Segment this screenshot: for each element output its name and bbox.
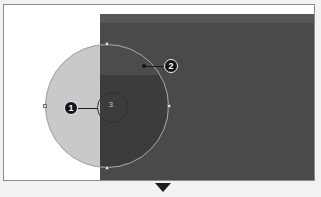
callout-2-badge[interactable]: 2 bbox=[164, 59, 178, 73]
callout-marker-2[interactable]: 2 bbox=[164, 59, 178, 73]
resize-handle-bottom[interactable] bbox=[105, 166, 109, 170]
image-canvas[interactable]: 3 1 2 bbox=[3, 4, 315, 181]
bottom-pointer-triangle[interactable] bbox=[155, 183, 171, 192]
resize-handle-right[interactable] bbox=[167, 104, 171, 108]
callout-marker-1[interactable]: 1 bbox=[64, 101, 78, 115]
overlay-top-band bbox=[100, 14, 315, 23]
callout-2-leader-line bbox=[146, 66, 164, 67]
inner-circle-label: 3 bbox=[109, 101, 113, 109]
resize-handle-top[interactable] bbox=[105, 42, 109, 46]
resize-handle-left[interactable] bbox=[43, 104, 47, 108]
callout-1-leader-line bbox=[78, 108, 98, 109]
callout-1-badge[interactable]: 1 bbox=[64, 101, 78, 115]
